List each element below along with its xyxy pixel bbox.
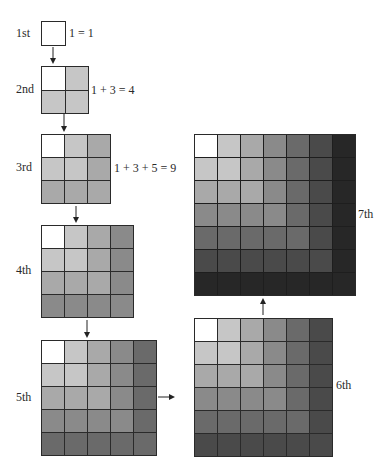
grid-cell-layer-4 — [264, 227, 286, 249]
grid-cell-layer-6 — [333, 158, 355, 180]
grid-cell-layer-2 — [195, 365, 217, 387]
grid-cell-layer-6 — [333, 250, 355, 272]
grid-cell-layer-5 — [310, 342, 332, 364]
grid-cell-layer-2 — [65, 181, 87, 203]
grid-cell-layer-4 — [111, 433, 133, 455]
grid-cell-layer-6 — [333, 181, 355, 203]
step-label: 1st — [16, 27, 30, 39]
grid-cell-layer-4 — [241, 411, 263, 433]
grid-cell-layer-3 — [111, 272, 133, 294]
sum-equation: 1 = 1 — [69, 27, 94, 39]
grid-cell-layer-2 — [241, 365, 263, 387]
grid-cell-layer-0 — [42, 226, 64, 248]
grid-cell-layer-4 — [195, 227, 217, 249]
grid-cell-layer-5 — [310, 158, 332, 180]
grid-cell-layer-1 — [65, 226, 87, 248]
grid-cell-layer-4 — [287, 135, 309, 157]
grid-cell-layer-4 — [287, 342, 309, 364]
grid-cell-layer-2 — [241, 181, 263, 203]
grid-cell-layer-4 — [42, 433, 64, 455]
grid-cell-layer-3 — [264, 342, 286, 364]
grid-cell-layer-5 — [310, 250, 332, 272]
grid-cell-layer-6 — [241, 273, 263, 295]
grid-cell-layer-1 — [218, 342, 240, 364]
grid-cell-layer-1 — [42, 364, 64, 386]
grid-cell-layer-5 — [310, 181, 332, 203]
grid-cell-layer-2 — [42, 181, 64, 203]
grid-cell-layer-1 — [42, 249, 64, 271]
grid-cell-layer-3 — [264, 388, 286, 410]
step-label: 4th — [16, 264, 31, 276]
arrow-5th-to-6th-icon — [158, 393, 175, 401]
step-label: 3rd — [16, 161, 32, 173]
arrow-2nd-to-3rd-icon — [60, 114, 68, 132]
grid-cell-layer-1 — [218, 158, 240, 180]
grid-cell-layer-3 — [241, 204, 263, 226]
grid-cell-layer-5 — [241, 250, 263, 272]
square-grid-5th — [41, 340, 157, 456]
grid-cell-layer-3 — [264, 135, 286, 157]
grid-cell-layer-5 — [287, 250, 309, 272]
grid-cell-layer-5 — [287, 434, 309, 456]
grid-cell-layer-5 — [310, 135, 332, 157]
grid-cell-layer-1 — [65, 158, 87, 180]
grid-cell-layer-3 — [218, 204, 240, 226]
grid-cell-layer-3 — [65, 295, 87, 317]
grid-cell-layer-5 — [241, 434, 263, 456]
grid-cell-layer-5 — [310, 365, 332, 387]
grid-cell-layer-2 — [218, 365, 240, 387]
grid-cell-layer-2 — [241, 342, 263, 364]
grid-cell-layer-2 — [88, 341, 110, 363]
grid-cell-layer-5 — [195, 434, 217, 456]
step-label: 7th — [358, 208, 373, 220]
grid-cell-layer-3 — [264, 181, 286, 203]
grid-cell-layer-1 — [66, 67, 89, 90]
grid-cell-layer-3 — [88, 410, 110, 432]
grid-cell-layer-4 — [287, 365, 309, 387]
grid-cell-layer-4 — [134, 364, 156, 386]
grid-cell-layer-4 — [287, 227, 309, 249]
grid-cell-layer-1 — [195, 158, 217, 180]
grid-cell-layer-5 — [310, 434, 332, 456]
square-grid-2nd — [41, 66, 89, 114]
grid-cell-layer-4 — [88, 433, 110, 455]
grid-cell-layer-2 — [42, 272, 64, 294]
grid-cell-layer-4 — [287, 319, 309, 341]
grid-cell-layer-3 — [88, 295, 110, 317]
grid-cell-layer-5 — [264, 434, 286, 456]
grid-cell-layer-1 — [195, 342, 217, 364]
grid-cell-layer-2 — [88, 387, 110, 409]
grid-cell-layer-5 — [310, 204, 332, 226]
grid-cell-layer-0 — [42, 67, 65, 90]
grid-cell-layer-2 — [195, 181, 217, 203]
grid-cell-layer-3 — [111, 341, 133, 363]
grid-cell-layer-3 — [42, 410, 64, 432]
grid-cell-layer-4 — [134, 387, 156, 409]
grid-cell-layer-4 — [134, 433, 156, 455]
grid-cell-layer-1 — [218, 319, 240, 341]
grid-cell-layer-5 — [310, 411, 332, 433]
grid-cell-layer-5 — [310, 388, 332, 410]
grid-cell-layer-1 — [65, 364, 87, 386]
square-grid-7th — [194, 134, 356, 296]
grid-cell-layer-3 — [111, 410, 133, 432]
arrow-4th-to-5th-icon — [83, 320, 91, 338]
grid-cell-layer-2 — [88, 158, 110, 180]
grid-cell-layer-3 — [42, 295, 64, 317]
grid-cell-layer-1 — [65, 135, 87, 157]
grid-cell-layer-3 — [111, 226, 133, 248]
square-grid-6th — [194, 318, 333, 457]
grid-cell-layer-2 — [65, 387, 87, 409]
grid-cell-layer-6 — [333, 273, 355, 295]
grid-cell-layer-4 — [287, 204, 309, 226]
grid-cell-layer-5 — [264, 250, 286, 272]
grid-cell-layer-2 — [88, 226, 110, 248]
grid-cell-layer-3 — [111, 387, 133, 409]
step-label: 2nd — [16, 83, 34, 95]
grid-cell-layer-3 — [111, 364, 133, 386]
grid-cell-layer-3 — [264, 319, 286, 341]
grid-cell-layer-1 — [42, 91, 65, 114]
sum-equation: 1 + 3 + 5 = 9 — [114, 162, 176, 174]
grid-cell-layer-1 — [42, 158, 64, 180]
grid-cell-layer-2 — [241, 158, 263, 180]
